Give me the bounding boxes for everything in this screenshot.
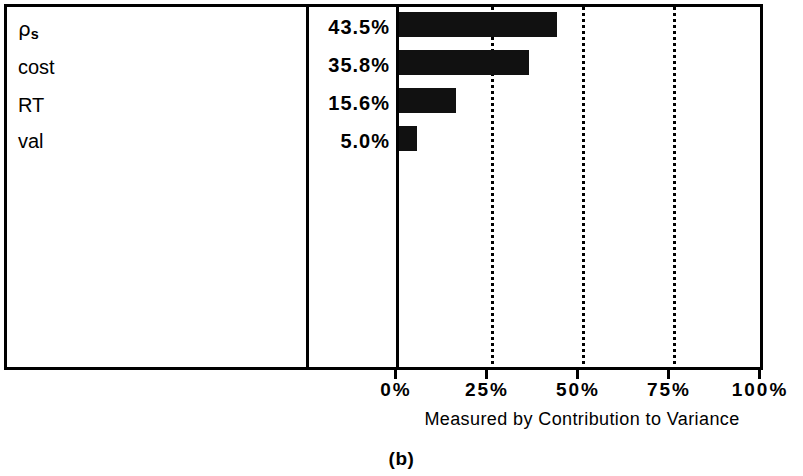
row-percent-rho-s: 43.5% [328,17,390,37]
bar-rho-s [399,12,557,37]
row-label-rho-s: ρs [18,19,39,44]
x-axis-title: Measured by Contribution to Variance [392,409,772,430]
gridline-50-percent [582,7,585,367]
tick-label-50: 50% [556,379,600,401]
plot-area [399,7,760,367]
tick-mark-0 [394,370,397,379]
bar-cost [399,50,529,75]
tick-mark-50 [576,370,579,379]
tick-mark-75 [667,370,670,379]
bar-val [399,126,417,151]
percent-value-column: 43.5% 35.8% 15.6% 5.0% [309,7,396,367]
tick-mark-25 [485,370,488,379]
figure-caption: (b) [0,448,803,470]
gridline-75-percent [673,7,676,367]
row-label-val: val [18,131,44,151]
row-label-cost: cost [18,57,55,77]
row-percent-rt: 15.6% [328,93,390,113]
row-percent-val: 5.0% [340,131,390,151]
variable-label-column: ρs cost RT val [7,7,306,367]
tick-mark-100 [758,370,761,379]
rho-symbol: ρ [18,17,31,41]
rho-subscript: s [31,26,39,42]
tick-label-100: 100% [732,379,789,401]
tick-label-0: 0% [380,379,411,401]
bar-rt [399,88,456,113]
row-label-rt: RT [18,95,44,115]
figure-panel: ρs cost RT val 43.5% 35.8% 15.6% 5.0% 0%… [0,0,803,476]
chart-frame: ρs cost RT val 43.5% 35.8% 15.6% 5.0% [4,4,763,370]
tick-label-75: 75% [647,379,691,401]
row-percent-cost: 35.8% [328,55,390,75]
tick-label-25: 25% [465,379,509,401]
